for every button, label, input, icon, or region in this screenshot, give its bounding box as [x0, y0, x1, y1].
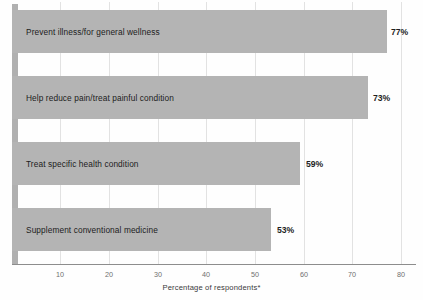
bar-category-label: Help reduce pain/treat painful condition — [26, 93, 174, 103]
xtick-label: 10 — [56, 270, 64, 279]
bar-value-label: 59% — [306, 159, 323, 169]
bar-category-label: Prevent illness/for general wellness — [26, 27, 160, 37]
xtick-label: 70 — [348, 270, 356, 279]
bar-value-label: 53% — [277, 225, 294, 235]
bar-chart: Prevent illness/for general wellness 77%… — [0, 0, 423, 300]
xtick-label: 50 — [251, 270, 259, 279]
bar-row: Help reduce pain/treat painful condition… — [0, 76, 423, 119]
bar-category-label: Treat specific health condition — [26, 159, 139, 169]
xtick-label: 60 — [300, 270, 308, 279]
bar-value-label: 77% — [391, 27, 408, 37]
bar-row: Treat specific health condition 59% — [0, 142, 423, 185]
value-axis-line — [12, 264, 416, 265]
xtick-label: 30 — [154, 270, 162, 279]
bar-row: Supplement conventional medicine 53% — [0, 208, 423, 251]
x-axis-title: Percentage of respondents* — [0, 283, 423, 292]
xtick-label: 20 — [105, 270, 113, 279]
bar-row: Prevent illness/for general wellness 77% — [0, 10, 423, 53]
plot-area: Prevent illness/for general wellness 77%… — [0, 0, 423, 266]
bar-value-label: 73% — [373, 93, 390, 103]
xtick-label: 80 — [397, 270, 405, 279]
xtick-label: 40 — [202, 270, 210, 279]
bar-category-label: Supplement conventional medicine — [26, 225, 158, 235]
